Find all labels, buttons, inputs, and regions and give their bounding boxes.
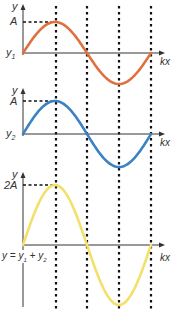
panel1-amplitude-label: A [10, 15, 17, 27]
superposition-diagram: y A y1 kx y A y2 kx y 2A y = y1 + y2 kx [0, 0, 176, 316]
panel2-amplitude-label: A [10, 95, 17, 107]
panel3-amplitude-label: 2A [4, 179, 17, 191]
x-axis-arrow-icon [159, 243, 165, 248]
panel3-x-axis-label: kx [160, 252, 170, 263]
x-axis-arrow-icon [159, 51, 165, 56]
panel-sum [21, 172, 166, 307]
wave-figure [0, 0, 176, 316]
panel1-x-axis-label: kx [160, 56, 170, 67]
y-axis-arrow-icon [21, 88, 26, 94]
x-axis-arrow-icon [159, 132, 165, 137]
panel1-y-axis-label: y [12, 0, 18, 12]
panel1-origin-label: y1 [6, 46, 15, 60]
panel-wave2 [21, 88, 166, 167]
panel2-x-axis-label: kx [160, 137, 170, 148]
y-axis-arrow-icon [21, 172, 26, 178]
panel-wave1 [21, 4, 166, 84]
panel2-origin-label: y2 [6, 127, 15, 141]
panel3-sum-label: y = y1 + y2 [2, 250, 47, 263]
y-axis-arrow-icon [21, 4, 26, 10]
